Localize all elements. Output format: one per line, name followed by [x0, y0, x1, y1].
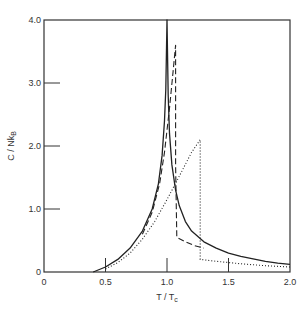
specific-heat-chart: 00.51.01.52.001.02.03.04.0 T / Tc C / Nk…	[0, 0, 308, 311]
x-tick-label: 1.0	[161, 277, 174, 287]
series-dashed-line	[142, 45, 204, 248]
y-axis-label: C / NkB	[6, 131, 17, 161]
x-tick-label: 0	[41, 277, 46, 287]
y-tick-label: 0	[36, 267, 41, 277]
axis-ticks	[44, 83, 229, 272]
data-series	[93, 20, 290, 272]
y-tick-label: 4.0	[28, 15, 41, 25]
series-solid-line	[93, 20, 290, 272]
y-tick-label: 2.0	[28, 141, 41, 151]
x-axis-label: T / Tc	[156, 292, 178, 303]
x-tick-label: 0.5	[99, 277, 112, 287]
series-dotted-line	[106, 140, 291, 269]
x-tick-label: 1.5	[222, 277, 235, 287]
x-tick-label: 2.0	[284, 277, 297, 287]
y-tick-label: 1.0	[28, 204, 41, 214]
y-tick-label: 3.0	[28, 78, 41, 88]
